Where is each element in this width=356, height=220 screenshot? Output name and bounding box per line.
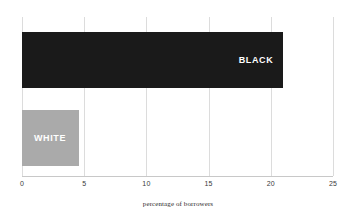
x-tick-label-25: 25 — [329, 180, 337, 187]
gridline-25 — [333, 17, 334, 176]
bar-chart: BLACKWHITE percentage of borrowers 05101… — [0, 0, 356, 220]
bar-label-black: BLACK — [239, 55, 284, 65]
plot-area: BLACKWHITE — [22, 17, 333, 176]
x-tick-label-5: 5 — [82, 180, 86, 187]
x-tick-label-0: 0 — [20, 180, 24, 187]
bar-white[interactable]: WHITE — [22, 110, 79, 166]
bar-label-white: WHITE — [22, 133, 66, 143]
x-tick-label-15: 15 — [205, 180, 213, 187]
x-axis-title: percentage of borrowers — [0, 200, 356, 208]
x-axis-line — [22, 176, 333, 177]
x-tick-label-10: 10 — [142, 180, 150, 187]
x-tick-label-20: 20 — [267, 180, 275, 187]
bar-black[interactable]: BLACK — [22, 32, 283, 88]
